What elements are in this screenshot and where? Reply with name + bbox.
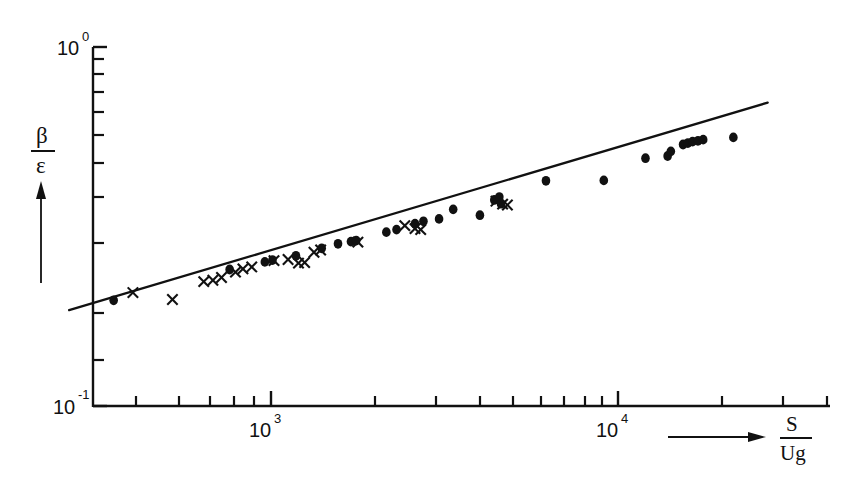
y-tick-exponent-top: 0 [82,29,89,44]
data-point-circle [476,210,485,220]
y-tick-exponent-bottom: -1 [78,387,90,402]
data-point-circle [641,153,650,163]
data-point-cross [199,276,209,286]
log-log-scatter-plot: 10 0 10 -1 β ε [0,0,850,477]
data-point-circle [392,225,401,235]
y-axis: 10 0 10 -1 [53,29,107,418]
circle-data-series [109,133,737,306]
x-axis-title-denominator: Ug [780,441,806,465]
data-point-circle [352,236,361,246]
y-axis-title-denominator: ε [36,153,46,178]
data-point-cross [208,275,218,285]
x-tick-exponent-1e3: 3 [274,411,281,426]
x-tick-label-1e3: 10 [249,419,271,441]
data-point-circle [435,214,444,224]
data-point-circle [292,251,301,261]
data-point-circle [542,176,551,186]
data-point-circle [599,176,608,186]
data-point-circle [268,255,277,265]
y-tick-label-top: 10 [57,37,79,59]
y-tick-label-bottom: 10 [53,396,75,418]
data-point-cross [400,220,410,230]
data-point-circle [699,135,708,145]
data-point-circle [729,133,738,143]
data-point-circle [317,243,326,253]
data-point-circle [109,295,118,305]
data-point-cross [299,257,309,267]
data-point-circle [382,227,391,237]
y-axis-arrow-up-icon [36,181,46,283]
data-point-cross [216,272,226,282]
x-axis: 10 3 10 4 [93,391,830,441]
data-point-circle [334,239,343,249]
data-point-circle [261,257,270,267]
x-axis-title: S Ug [668,412,812,465]
y-axis-title-numerator: β [36,123,48,148]
data-point-circle [497,199,506,209]
x-tick-label-1e4: 10 [596,419,618,441]
data-point-circle [225,265,234,275]
data-point-circle [667,146,676,156]
data-point-circle [411,219,420,229]
fit-line [69,103,768,310]
power-law-fit-line [69,103,768,310]
x-tick-exponent-1e4: 4 [621,411,628,426]
data-point-cross [247,262,257,272]
data-point-circle [449,204,458,214]
data-point-circle [419,216,428,226]
x-axis-arrow-right-icon [668,432,766,442]
data-point-cross [167,294,177,304]
x-axis-title-numerator: S [786,412,798,436]
y-axis-title: β ε [31,123,55,283]
